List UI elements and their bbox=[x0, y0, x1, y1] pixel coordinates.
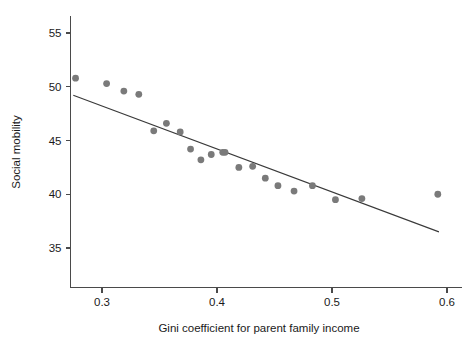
data-point bbox=[208, 151, 215, 158]
y-tick-label: 35 bbox=[49, 242, 62, 254]
data-point bbox=[359, 195, 366, 202]
data-point bbox=[291, 188, 298, 195]
y-axis-ticks: 3540455055 bbox=[49, 27, 71, 254]
x-axis-title: Gini coefficient for parent family incom… bbox=[158, 322, 359, 334]
data-point bbox=[332, 196, 339, 203]
x-tick-label: 0.5 bbox=[324, 296, 340, 308]
data-point bbox=[120, 88, 127, 95]
data-point bbox=[135, 91, 142, 98]
y-tick-label: 40 bbox=[49, 188, 62, 200]
y-axis: 3540455055 bbox=[49, 16, 71, 288]
data-point bbox=[235, 164, 242, 171]
y-tick-label: 45 bbox=[49, 135, 62, 147]
x-tick-label: 0.4 bbox=[209, 296, 226, 308]
x-tick-label: 0.6 bbox=[439, 296, 455, 308]
y-tick-label: 50 bbox=[49, 81, 62, 93]
data-points bbox=[72, 75, 441, 203]
scatter-plot: 3540455055 0.30.40.50.6 Gini coefficient… bbox=[0, 0, 476, 348]
data-point bbox=[163, 120, 170, 127]
data-point bbox=[275, 182, 282, 189]
data-point bbox=[249, 163, 256, 170]
x-axis-ticks: 0.30.40.50.6 bbox=[94, 288, 455, 308]
x-axis: 0.30.40.50.6 bbox=[71, 288, 463, 308]
data-point bbox=[434, 191, 441, 198]
data-point bbox=[72, 75, 79, 82]
regression-line bbox=[73, 95, 439, 232]
data-point bbox=[187, 146, 194, 153]
data-point bbox=[177, 129, 184, 136]
chart-figure: 3540455055 0.30.40.50.6 Gini coefficient… bbox=[0, 0, 476, 348]
data-point bbox=[150, 127, 157, 134]
y-axis-title: Social mobility bbox=[10, 115, 22, 189]
data-point bbox=[222, 149, 229, 156]
data-point bbox=[262, 175, 269, 182]
data-point bbox=[103, 80, 110, 87]
data-point bbox=[309, 182, 316, 189]
data-point bbox=[198, 156, 205, 163]
x-tick-label: 0.3 bbox=[94, 296, 110, 308]
y-tick-label: 55 bbox=[49, 27, 62, 39]
regression-line-segment bbox=[73, 95, 439, 232]
